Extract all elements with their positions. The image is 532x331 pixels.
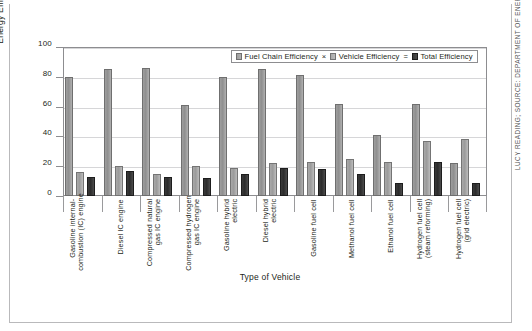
- y-tick-mark-60: [56, 107, 63, 108]
- bar: [164, 177, 172, 196]
- bar-group: [140, 47, 179, 196]
- bar: [395, 183, 403, 196]
- bar: [296, 75, 304, 196]
- bar: [373, 135, 381, 196]
- bar-group: [410, 47, 449, 196]
- y-tick-label-60: 60: [43, 100, 52, 108]
- y-tick-40: 40: [0, 136, 63, 137]
- bar: [346, 159, 354, 196]
- y-tick-80: 80: [0, 77, 63, 78]
- bar: [203, 178, 211, 196]
- y-tick-label-20: 20: [43, 159, 52, 167]
- bar-group: [256, 47, 295, 196]
- bar: [335, 104, 343, 196]
- y-tick-label-40: 40: [43, 129, 52, 137]
- bar: [472, 183, 480, 196]
- bar: [219, 77, 227, 196]
- bar-series-container: [63, 47, 487, 196]
- bar: [153, 174, 161, 196]
- bar: [87, 177, 95, 196]
- x-tick-label: Gasoline fuel cell: [309, 199, 317, 271]
- legend-operator: =: [404, 52, 408, 61]
- y-tick-100: 100: [0, 47, 63, 48]
- x-tick-label: Ethanol fuel cell: [386, 199, 394, 271]
- bar: [357, 174, 365, 196]
- legend-swatch-icon: [236, 53, 242, 60]
- bar: [142, 68, 150, 196]
- bar: [450, 163, 458, 196]
- bar: [181, 105, 189, 196]
- x-axis-tick-labels: Gasoline internal- combustion (IC) engin…: [63, 199, 487, 271]
- x-tick-label: Gasoline internal- combustion (IC) engin…: [69, 199, 86, 271]
- x-axis-title: Type of Vehicle: [180, 272, 360, 282]
- bar: [115, 166, 123, 196]
- bar-group: [102, 47, 141, 196]
- bar-group: [217, 47, 256, 196]
- bar: [241, 174, 249, 196]
- bar: [230, 168, 238, 196]
- x-tick-label: Methanol fuel cell: [348, 199, 356, 271]
- figure-border-bottom: [9, 322, 512, 323]
- y-tick-mark-20: [56, 166, 63, 167]
- figure-border-right: [511, 4, 512, 322]
- y-tick-label-0: 0: [47, 189, 52, 197]
- bar: [192, 166, 200, 196]
- legend-label: Fuel Chain Efficiency: [245, 52, 318, 61]
- y-tick-mark-80: [56, 77, 63, 78]
- bar: [65, 77, 73, 196]
- legend-swatch-icon: [412, 53, 418, 60]
- legend-operator: ×: [322, 52, 326, 61]
- figure-chart-energy-efficiency: Energy Efficiency (percent) 020406080100…: [0, 0, 532, 331]
- y-tick-mark-0: [56, 196, 63, 197]
- legend-item: Vehicle Efficiency: [330, 52, 399, 61]
- bar: [423, 141, 431, 196]
- legend-label: Vehicle Efficiency: [339, 52, 400, 61]
- y-tick-label-80: 80: [43, 70, 52, 78]
- chart-legend: Fuel Chain Efficiency×Vehicle Efficiency…: [231, 50, 478, 63]
- y-tick-60: 60: [0, 107, 63, 108]
- x-tick-label: Hydrogen fuel cell (steam reforming): [416, 199, 433, 271]
- bar: [412, 104, 420, 196]
- bar-group: [63, 47, 102, 196]
- legend-label: Total Efficiency: [420, 52, 472, 61]
- x-tick-label: Compressed hydrogen gas IC engine: [185, 199, 202, 271]
- bar: [384, 162, 392, 196]
- bar: [104, 69, 112, 196]
- legend-item: Fuel Chain Efficiency: [236, 52, 318, 61]
- y-tick-mark-40: [56, 136, 63, 137]
- bar: [434, 162, 442, 196]
- bar: [269, 163, 277, 196]
- legend-swatch-icon: [330, 53, 336, 60]
- y-axis-ticks: 020406080100: [0, 0, 63, 243]
- bar: [258, 69, 266, 196]
- bar: [461, 139, 469, 196]
- bar-group: [333, 47, 372, 196]
- bar: [307, 162, 315, 196]
- x-tick-label: Diesel IC engine: [116, 199, 124, 271]
- bar-group: [294, 47, 333, 196]
- figure-credit: LUCY READING; SOURCE: DEPARTMENT OF ENER…: [514, 0, 521, 170]
- bar-group: [448, 47, 487, 196]
- bar: [318, 169, 326, 196]
- bar: [280, 168, 288, 196]
- x-tick-label: Gasoline hybrid electric: [224, 199, 241, 271]
- bar: [126, 171, 134, 196]
- y-tick-20: 20: [0, 166, 63, 167]
- legend-item: Total Efficiency: [412, 52, 473, 61]
- y-tick-0: 0: [0, 196, 63, 197]
- x-tick-label: Hydrogen fuel cell (grid electric): [455, 199, 472, 271]
- bar-group: [179, 47, 218, 196]
- bar-group: [371, 47, 410, 196]
- y-tick-label-100: 100: [38, 40, 52, 48]
- x-tick-label: Compressed natural gas IC engine: [147, 199, 164, 271]
- x-tick-label: Diesel hybrid electric: [262, 199, 279, 271]
- y-tick-mark-100: [56, 47, 63, 48]
